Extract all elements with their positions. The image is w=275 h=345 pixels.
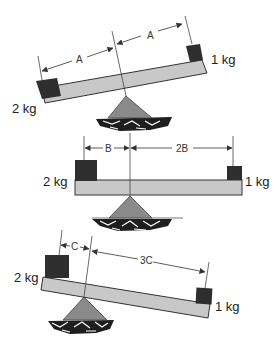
weight-2kg (75, 160, 97, 181)
rock-base-icon (92, 219, 172, 231)
mass-label-right: 1 kg (215, 299, 240, 314)
dim-label-left: B (105, 143, 112, 154)
dim-label-left: A (76, 54, 83, 65)
rock-base-icon (48, 320, 114, 334)
mass-label-right: 1 kg (245, 174, 270, 189)
mass-label-left: 2 kg (43, 174, 68, 189)
weight-1kg (227, 166, 242, 180)
beam (75, 180, 242, 195)
mass-label-left: 2 kg (14, 270, 39, 285)
fulcrum-icon (109, 196, 152, 218)
mass-label-left: 2 kg (12, 101, 37, 116)
lever-diagram: A A 2 kg 1 kg B 2B 2 kg 1 kg (0, 0, 275, 345)
dim-label-right: 3C (140, 255, 153, 266)
weight-2kg (45, 255, 69, 278)
dim-label-left: C (71, 241, 78, 252)
panel-middle: B 2B 2 kg 1 kg (43, 133, 270, 231)
beam (41, 277, 210, 318)
dim-label-right: A (147, 30, 154, 41)
weight-2kg (36, 78, 61, 99)
fulcrum-icon (108, 96, 152, 118)
beam (42, 60, 207, 103)
dim-label-right: 2B (176, 143, 189, 154)
panel-top: A A 2 kg 1 kg (12, 16, 236, 131)
mass-label-right: 1 kg (211, 52, 236, 67)
weight-1kg (186, 44, 203, 62)
panel-bottom: C 3C 2 kg 1 kg (14, 230, 240, 334)
rock-base-icon (96, 117, 172, 131)
weight-1kg (196, 288, 213, 305)
